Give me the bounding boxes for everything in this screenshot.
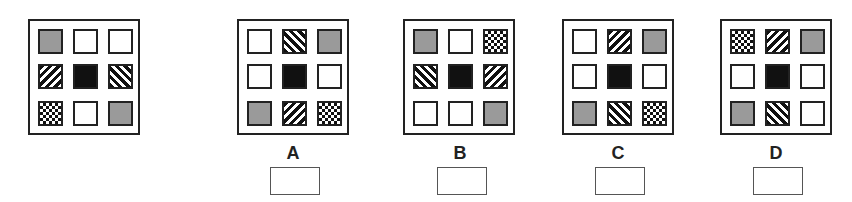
checker-square-icon xyxy=(483,29,508,54)
hatch-fwd-square-icon xyxy=(38,64,63,89)
gray-square-icon xyxy=(247,101,272,126)
gray-square-icon xyxy=(413,29,438,54)
option-b-answer-box[interactable] xyxy=(437,167,487,195)
hatch-fwd-square-icon xyxy=(282,101,307,126)
hatch-back-square-icon xyxy=(108,64,133,89)
white-square-icon xyxy=(108,29,133,54)
option-c-figure xyxy=(562,19,674,135)
checker-square-icon xyxy=(317,101,342,126)
black-square-icon xyxy=(282,64,307,89)
hatch-back-square-icon xyxy=(607,101,632,126)
option-a-label: A xyxy=(273,143,313,164)
hatch-back-square-icon xyxy=(282,29,307,54)
hatch-fwd-square-icon xyxy=(483,64,508,89)
reference-figure xyxy=(28,19,140,135)
black-square-icon xyxy=(765,64,790,89)
option-c-label: C xyxy=(598,143,638,164)
black-square-icon xyxy=(73,64,98,89)
white-square-icon xyxy=(413,101,438,126)
white-square-icon xyxy=(730,64,755,89)
checker-square-icon xyxy=(38,101,63,126)
hatch-back-square-icon xyxy=(413,64,438,89)
white-square-icon xyxy=(572,64,597,89)
checker-square-icon xyxy=(730,29,755,54)
black-square-icon xyxy=(607,64,632,89)
gray-square-icon xyxy=(108,101,133,126)
gray-square-icon xyxy=(483,101,508,126)
white-square-icon xyxy=(317,64,342,89)
white-square-icon xyxy=(73,101,98,126)
white-square-icon xyxy=(572,29,597,54)
gray-square-icon xyxy=(642,29,667,54)
option-d-answer-box[interactable] xyxy=(753,167,803,195)
hatch-fwd-square-icon xyxy=(765,29,790,54)
gray-square-icon xyxy=(38,29,63,54)
option-d-figure xyxy=(720,19,832,135)
gray-square-icon xyxy=(572,101,597,126)
hatch-back-square-icon xyxy=(765,101,790,126)
white-square-icon xyxy=(800,64,825,89)
white-square-icon xyxy=(247,29,272,54)
option-b-figure xyxy=(403,19,515,135)
white-square-icon xyxy=(247,64,272,89)
white-square-icon xyxy=(448,29,473,54)
white-square-icon xyxy=(73,29,98,54)
hatch-fwd-square-icon xyxy=(607,29,632,54)
checker-square-icon xyxy=(642,101,667,126)
gray-square-icon xyxy=(317,29,342,54)
option-a-answer-box[interactable] xyxy=(270,167,320,195)
black-square-icon xyxy=(448,64,473,89)
option-c-answer-box[interactable] xyxy=(595,167,645,195)
gray-square-icon xyxy=(800,29,825,54)
white-square-icon xyxy=(642,64,667,89)
white-square-icon xyxy=(448,101,473,126)
white-square-icon xyxy=(800,101,825,126)
option-a-figure xyxy=(237,19,349,135)
gray-square-icon xyxy=(730,101,755,126)
option-d-label: D xyxy=(756,143,796,164)
option-b-label: B xyxy=(440,143,480,164)
